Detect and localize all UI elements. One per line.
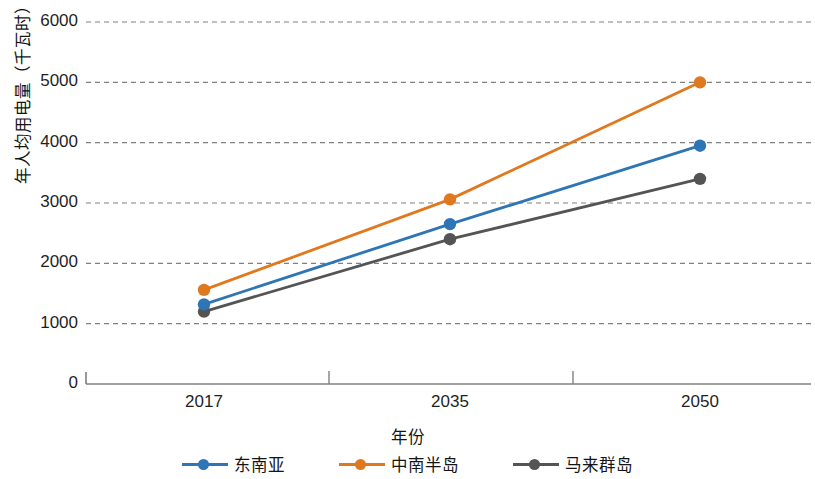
y-tick-label: 1000 xyxy=(8,313,78,333)
legend-marker-icon xyxy=(198,459,209,470)
legend-swatch xyxy=(182,457,228,471)
chart-legend: 东南亚中南半岛马来群岛 xyxy=(0,452,815,476)
legend-marker-icon xyxy=(355,459,366,470)
y-tick-label: 0 xyxy=(8,373,78,393)
y-tick-label: 5000 xyxy=(8,71,78,91)
y-tick-label: 4000 xyxy=(8,132,78,152)
data-point-marker xyxy=(198,298,210,310)
line-chart: 年人均用电量（千瓦时） 年份 0100020003000400050006000… xyxy=(0,0,815,479)
data-point-marker xyxy=(444,218,456,230)
data-point-marker xyxy=(444,193,456,205)
legend-label: 东南亚 xyxy=(234,452,285,476)
data-point-marker xyxy=(694,139,706,151)
legend-label: 马来群岛 xyxy=(565,452,633,476)
legend-swatch xyxy=(339,457,385,471)
data-point-marker xyxy=(198,284,210,296)
legend-swatch xyxy=(513,457,559,471)
y-tick-label: 3000 xyxy=(8,192,78,212)
data-point-marker xyxy=(444,233,456,245)
legend-item[interactable]: 东南亚 xyxy=(182,452,285,476)
x-tick-label: 2017 xyxy=(144,392,264,412)
legend-label: 中南半岛 xyxy=(391,452,459,476)
legend-marker-icon xyxy=(529,459,540,470)
y-axis-title: 年人均用电量（千瓦时） xyxy=(10,0,34,210)
x-tick-label: 2050 xyxy=(640,392,760,412)
x-tick-label: 2035 xyxy=(390,392,510,412)
legend-item[interactable]: 中南半岛 xyxy=(339,452,459,476)
x-axis-title: 年份 xyxy=(0,424,815,448)
data-point-marker xyxy=(694,173,706,185)
y-tick-label: 6000 xyxy=(8,11,78,31)
y-tick-label: 2000 xyxy=(8,252,78,272)
series-line xyxy=(204,82,700,290)
legend-item[interactable]: 马来群岛 xyxy=(513,452,633,476)
data-point-marker xyxy=(694,76,706,88)
